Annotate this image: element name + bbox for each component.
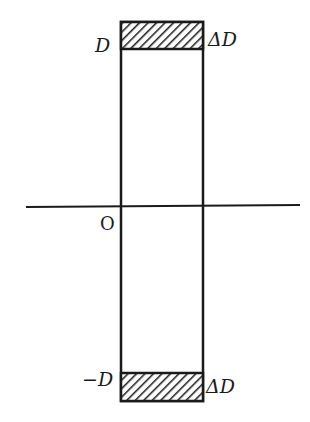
horizontal-axis [26,205,300,207]
bottom-hatched-band [121,373,203,401]
band-diagram: D ΔD O −D ΔD [0,0,310,422]
rectangle-outline [121,22,203,401]
top-hatched-band [121,22,203,49]
label-bottom-level: −D [82,368,113,390]
label-top-width: ΔD [207,28,237,50]
label-bottom-width: ΔD [205,375,235,397]
label-top-level: D [94,34,110,56]
label-origin: O [100,213,115,234]
